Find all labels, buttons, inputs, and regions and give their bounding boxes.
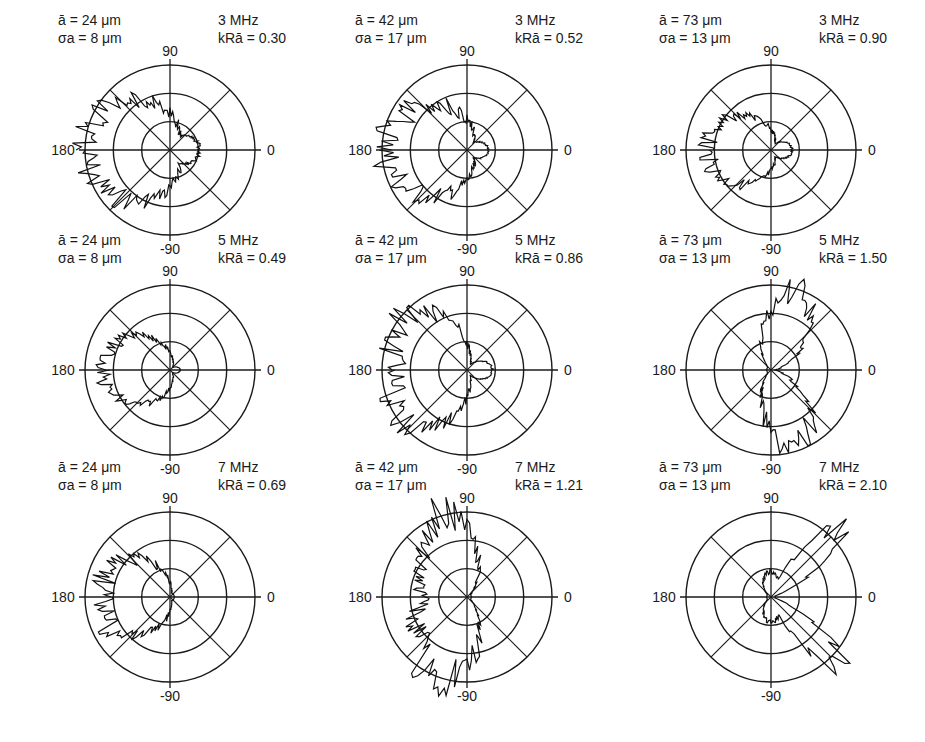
polar-panel (680, 59, 862, 241)
frequency-label: 5 MHz (218, 232, 258, 248)
axis-label-left: 180 (652, 362, 675, 378)
polar-panel (73, 59, 262, 241)
axis-label-bottom: -90 (761, 241, 781, 257)
axis-label-bottom: -90 (160, 461, 180, 477)
axis-label-top: 90 (459, 43, 475, 59)
sigma-label: σa = 13 μm (659, 477, 731, 493)
axis-label-bottom: -90 (457, 241, 477, 257)
axis-label-top: 90 (763, 43, 779, 59)
kr-label: kRā = 0.90 (819, 30, 887, 46)
sigma-label: σa = 17 μm (355, 477, 427, 493)
kr-label: kRā = 1.21 (515, 477, 583, 493)
axis-label-right: 0 (868, 589, 876, 605)
mean-size-label: ā = 24 μm (58, 232, 121, 248)
axis-label-top: 90 (162, 490, 178, 506)
sigma-label: σa = 8 μm (58, 250, 122, 266)
axis-label-left: 180 (348, 362, 371, 378)
frequency-label: 3 MHz (218, 12, 258, 28)
sigma-label: σa = 17 μm (355, 250, 427, 266)
axis-label-bottom: -90 (160, 688, 180, 704)
polar-panel (680, 279, 862, 461)
axis-label-right: 0 (564, 589, 572, 605)
frequency-label: 7 MHz (515, 459, 555, 475)
mean-size-label: ā = 24 μm (58, 459, 121, 475)
frequency-label: 5 MHz (819, 232, 859, 248)
axis-label-top: 90 (162, 263, 178, 279)
polar-panel (376, 497, 558, 696)
axis-label-top: 90 (763, 490, 779, 506)
axis-label-right: 0 (267, 362, 275, 378)
frequency-label: 7 MHz (819, 459, 859, 475)
axis-label-top: 90 (763, 263, 779, 279)
axis-label-bottom: -90 (761, 688, 781, 704)
axis-label-bottom: -90 (457, 688, 477, 704)
axis-label-left: 180 (51, 362, 74, 378)
frequency-label: 3 MHz (819, 12, 859, 28)
mean-size-label: ā = 73 μm (659, 459, 722, 475)
frequency-label: 3 MHz (515, 12, 555, 28)
axis-label-left: 180 (348, 589, 371, 605)
mean-size-label: ā = 42 μm (355, 232, 418, 248)
axis-label-bottom: -90 (457, 461, 477, 477)
axis-label-right: 0 (564, 362, 572, 378)
axis-label-right: 0 (868, 142, 876, 158)
polar-panel (680, 506, 862, 688)
axis-label-left: 180 (652, 589, 675, 605)
kr-label: kRā = 0.86 (515, 250, 583, 266)
kr-label: kRā = 2.10 (819, 477, 887, 493)
mean-size-label: ā = 42 μm (355, 459, 418, 475)
axis-label-left: 180 (652, 142, 675, 158)
sigma-label: σa = 13 μm (659, 30, 731, 46)
axis-label-left: 180 (348, 142, 371, 158)
axis-label-top: 90 (459, 490, 475, 506)
sigma-label: σa = 13 μm (659, 250, 731, 266)
polar-panel (376, 279, 558, 461)
kr-label: kRā = 1.50 (819, 250, 887, 266)
axis-label-right: 0 (868, 362, 876, 378)
polar-panel (79, 506, 261, 688)
frequency-label: 7 MHz (218, 459, 258, 475)
kr-label: kRā = 0.52 (515, 30, 583, 46)
kr-label: kRā = 0.30 (218, 30, 286, 46)
axis-label-bottom: -90 (160, 241, 180, 257)
sigma-label: σa = 8 μm (58, 477, 122, 493)
mean-size-label: ā = 73 μm (659, 12, 722, 28)
kr-label: kRā = 0.49 (218, 250, 286, 266)
axis-label-right: 0 (267, 142, 275, 158)
axis-label-left: 180 (51, 589, 74, 605)
polar-figure (0, 0, 925, 742)
mean-size-label: ā = 24 μm (58, 12, 121, 28)
axis-label-left: 180 (51, 142, 74, 158)
polar-panel (79, 279, 261, 461)
mean-size-label: ā = 42 μm (355, 12, 418, 28)
axis-label-bottom: -90 (761, 461, 781, 477)
mean-size-label: ā = 73 μm (659, 232, 722, 248)
kr-label: kRā = 0.69 (218, 477, 286, 493)
sigma-label: σa = 8 μm (58, 30, 122, 46)
polar-panel (374, 59, 558, 241)
axis-label-top: 90 (459, 263, 475, 279)
axis-label-right: 0 (564, 142, 572, 158)
axis-label-right: 0 (267, 589, 275, 605)
sigma-label: σa = 17 μm (355, 30, 427, 46)
axis-label-top: 90 (162, 43, 178, 59)
frequency-label: 5 MHz (515, 232, 555, 248)
